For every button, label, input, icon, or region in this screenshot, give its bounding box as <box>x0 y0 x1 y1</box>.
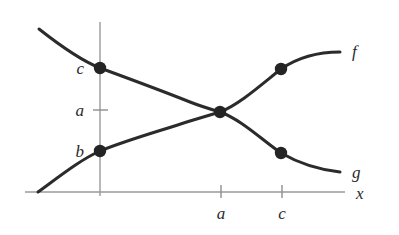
function-graph-figure: c a b a c f g x <box>0 0 399 235</box>
curve-label-f: f <box>352 42 359 61</box>
x-label-c: c <box>278 204 286 223</box>
point-f-at-c <box>275 63 287 75</box>
y-label-a: a <box>76 101 85 120</box>
point-f-y-intercept <box>94 145 106 157</box>
x-axis-label: x <box>355 184 364 203</box>
curve-label-g: g <box>352 163 361 182</box>
y-label-c: c <box>76 59 84 78</box>
curve-g <box>39 29 340 172</box>
point-g-y-intercept <box>94 62 106 74</box>
point-intersection <box>214 106 226 118</box>
y-label-b: b <box>76 142 85 161</box>
x-label-a: a <box>217 204 226 223</box>
point-g-at-c <box>275 147 287 159</box>
